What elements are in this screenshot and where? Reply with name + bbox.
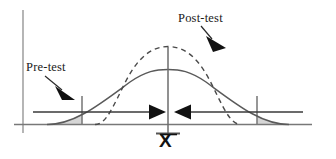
pre-test-label: Pre-test <box>26 60 66 75</box>
mean-x-bar-label: X <box>159 131 172 150</box>
post-test-label: Post-test <box>178 11 223 26</box>
post-test-pointer-arrow <box>201 26 226 52</box>
distribution-comparison-figure: Pre-test Post-test X <box>0 0 336 159</box>
right-convergence-arrow <box>174 105 303 120</box>
pre-test-pointer-arrow <box>45 76 75 100</box>
left-convergence-arrow <box>33 105 166 120</box>
